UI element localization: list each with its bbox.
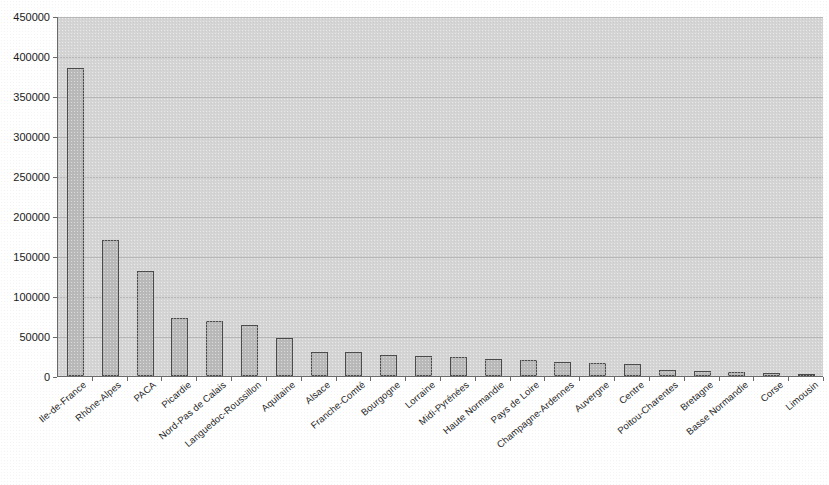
- bar: [67, 68, 84, 376]
- x-axis-tick: [788, 377, 789, 381]
- x-axis-tick: [579, 377, 580, 381]
- y-axis-tick: [53, 377, 57, 378]
- y-axis-tick-label: 150000: [0, 251, 50, 263]
- bar: [415, 356, 432, 376]
- y-axis-tick-label: 350000: [0, 91, 50, 103]
- x-axis-category-label: Centre: [616, 379, 645, 406]
- bar: [206, 321, 223, 376]
- x-axis-tick: [823, 377, 824, 381]
- x-axis-tick: [336, 377, 337, 381]
- y-axis-tick: [53, 57, 57, 58]
- x-axis-tick: [475, 377, 476, 381]
- y-axis-tick: [53, 337, 57, 338]
- x-axis-tick: [231, 377, 232, 381]
- bar: [694, 371, 711, 376]
- bar: [311, 352, 328, 376]
- x-axis-labels: Ile-de-FranceRhône-AlpesPACAPicardieNord…: [57, 379, 823, 485]
- x-axis-category-label: PACA: [131, 379, 158, 404]
- x-axis-category-label: Basse Normandie: [684, 379, 750, 437]
- y-axis-tick-label: 100000: [0, 291, 50, 303]
- y-axis-tick: [53, 257, 57, 258]
- y-axis-tick: [53, 297, 57, 298]
- bar: [520, 360, 537, 376]
- x-axis-category-label: Corse: [758, 379, 785, 404]
- bar: [241, 325, 258, 376]
- x-axis-category-label: Poitou-Charentes: [615, 379, 680, 436]
- bar: [380, 355, 397, 376]
- x-axis-tick: [719, 377, 720, 381]
- bar: [554, 362, 571, 376]
- bar: [102, 240, 119, 376]
- x-axis-category-label: Alsace: [303, 379, 332, 406]
- y-axis-tick: [53, 97, 57, 98]
- y-axis-tick: [53, 17, 57, 18]
- bar-series: [58, 17, 823, 376]
- bar: [345, 352, 362, 376]
- bar: [763, 373, 780, 376]
- y-axis-tick-label: 400000: [0, 51, 50, 63]
- y-axis-tick: [53, 177, 57, 178]
- y-axis-tick-label: 450000: [0, 11, 50, 23]
- x-axis-tick: [161, 377, 162, 381]
- y-axis-tick-label: 0: [0, 371, 50, 383]
- y-axis-tick-label: 300000: [0, 131, 50, 143]
- x-axis-tick: [544, 377, 545, 381]
- x-axis-tick: [753, 377, 754, 381]
- x-axis-tick: [440, 377, 441, 381]
- x-axis-tick: [196, 377, 197, 381]
- x-axis-tick: [127, 377, 128, 381]
- x-axis-category-label: Haute Normandie: [441, 379, 506, 436]
- y-axis-tick-label: 200000: [0, 211, 50, 223]
- y-axis-tick: [53, 137, 57, 138]
- y-axis-tick-label: 50000: [0, 331, 50, 343]
- x-axis-tick: [684, 377, 685, 381]
- y-axis-tick-label: 250000: [0, 171, 50, 183]
- x-axis-tick: [370, 377, 371, 381]
- bar: [659, 370, 676, 376]
- x-axis-tick: [301, 377, 302, 381]
- bar: [450, 357, 467, 376]
- y-axis: 0500001000001500002000002500003000003500…: [0, 0, 50, 395]
- x-axis-category-label: Aquitaine: [259, 379, 297, 413]
- x-axis-tick: [649, 377, 650, 381]
- bar: [624, 364, 641, 376]
- bar: [728, 372, 745, 376]
- bar: [276, 338, 293, 376]
- x-axis-tick: [405, 377, 406, 381]
- bar: [171, 318, 188, 376]
- x-axis-tick: [510, 377, 511, 381]
- bar-chart: 0500001000001500002000002500003000003500…: [0, 0, 829, 485]
- x-axis-tick: [92, 377, 93, 381]
- x-axis-tick: [614, 377, 615, 381]
- x-axis-category-label: Auvergne: [572, 379, 611, 414]
- bar: [485, 359, 502, 376]
- bar: [589, 363, 606, 376]
- plot-area: [57, 17, 823, 377]
- bar: [137, 271, 154, 376]
- x-axis-category-label: Limousin: [783, 379, 820, 412]
- x-axis-tick: [266, 377, 267, 381]
- bar: [798, 374, 815, 376]
- y-axis-tick: [53, 217, 57, 218]
